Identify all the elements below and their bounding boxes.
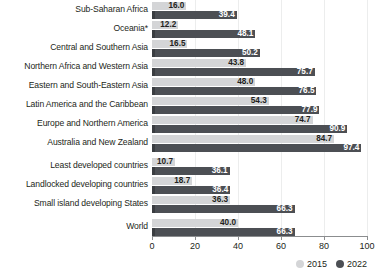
axis-tick-label: 40 bbox=[233, 241, 243, 251]
bar-value-label: 18.7 bbox=[174, 177, 190, 185]
legend-item-2015[interactable]: 2015 bbox=[296, 259, 327, 269]
category-label: Sub-Saharan Africa bbox=[0, 4, 148, 15]
bar-group: 36.366.3 bbox=[152, 195, 367, 214]
category-label: Australia and New Zealand bbox=[0, 137, 148, 148]
category-label: Small island developing States bbox=[0, 198, 148, 209]
bar-2022: 66.3 bbox=[152, 228, 295, 236]
bar-2015: 54.3 bbox=[152, 97, 269, 105]
bar-2015: 18.7 bbox=[152, 177, 192, 185]
bar-2022: 77.9 bbox=[152, 106, 319, 114]
bar-value-label: 36.3 bbox=[212, 196, 228, 204]
bar-value-label: 16.5 bbox=[170, 40, 186, 48]
bar-2022: 36.4 bbox=[152, 186, 230, 194]
bar-2022: 97.4 bbox=[152, 144, 361, 152]
bar-value-label: 66.3 bbox=[277, 228, 293, 236]
bar-value-label: 39.4 bbox=[219, 11, 235, 19]
axis-tick-label: 80 bbox=[319, 241, 329, 251]
chart-row: Central and Southern Asia16.550.2 bbox=[0, 39, 376, 58]
category-label: Central and Southern Asia bbox=[0, 42, 148, 53]
bar-2015: 74.7 bbox=[152, 116, 313, 124]
bar-value-label: 48.1 bbox=[237, 30, 253, 38]
bar-group: 40.066.3 bbox=[152, 218, 367, 237]
bar-group: 43.875.7 bbox=[152, 58, 367, 77]
x-axis-line bbox=[152, 236, 367, 237]
bar-value-label: 84.7 bbox=[316, 135, 332, 143]
bar-group: 54.377.9 bbox=[152, 96, 367, 115]
axis-tick bbox=[281, 236, 282, 240]
chart-row: Europe and Northern America74.790.9 bbox=[0, 115, 376, 134]
axis-tick bbox=[152, 236, 153, 240]
bar-2022: 76.5 bbox=[152, 87, 316, 95]
axis-tick bbox=[324, 236, 325, 240]
bar-2015: 43.8 bbox=[152, 59, 246, 67]
bar-2015: 12.2 bbox=[152, 21, 178, 29]
bar-value-label: 48.0 bbox=[237, 78, 253, 86]
bar-2022: 90.9 bbox=[152, 125, 347, 133]
axis-tick bbox=[238, 236, 239, 240]
legend-item-2022[interactable]: 2022 bbox=[336, 259, 367, 269]
chart-row: Northern Africa and Western Asia43.875.7 bbox=[0, 58, 376, 77]
bar-group: 84.797.4 bbox=[152, 134, 367, 153]
bar-value-label: 12.2 bbox=[160, 21, 176, 29]
bar-2015: 10.7 bbox=[152, 158, 175, 166]
bar-group: 16.039.4 bbox=[152, 1, 367, 20]
bar-value-label: 76.5 bbox=[299, 87, 315, 95]
bar-2022: 66.3 bbox=[152, 205, 295, 213]
category-label: Eastern and South-Eastern Asia bbox=[0, 80, 148, 91]
bar-2015: 48.0 bbox=[152, 78, 255, 86]
bar-value-label: 74.7 bbox=[295, 116, 311, 124]
axis-tick-label: 60 bbox=[276, 241, 286, 251]
bar-group: 10.736.1 bbox=[152, 157, 367, 176]
legend-label: 2015 bbox=[307, 259, 327, 269]
chart-legend: 20152022 bbox=[0, 257, 376, 271]
bar-value-label: 16.0 bbox=[168, 2, 184, 10]
chart-row: Oceania*12.248.1 bbox=[0, 20, 376, 39]
chart-row: Landlocked developing countries18.736.4 bbox=[0, 176, 376, 195]
bar-2022: 50.2 bbox=[152, 49, 260, 57]
bar-value-label: 36.4 bbox=[212, 186, 228, 194]
bar-group: 48.076.5 bbox=[152, 77, 367, 96]
legend-swatch-icon bbox=[296, 260, 304, 268]
legend-swatch-icon bbox=[336, 260, 344, 268]
chart-row: Sub-Saharan Africa16.039.4 bbox=[0, 1, 376, 20]
bar-group: 16.550.2 bbox=[152, 39, 367, 58]
chart-row: Latin America and the Caribbean54.377.9 bbox=[0, 96, 376, 115]
bar-value-label: 77.9 bbox=[302, 106, 318, 114]
bar-value-label: 66.3 bbox=[277, 205, 293, 213]
bar-2022: 48.1 bbox=[152, 30, 255, 38]
category-label: World bbox=[0, 221, 148, 232]
axis-tick-label: 20 bbox=[190, 241, 200, 251]
category-label: Least developed countries bbox=[0, 160, 148, 171]
bar-value-label: 50.2 bbox=[242, 49, 258, 57]
bar-2015: 16.0 bbox=[152, 2, 186, 10]
bar-value-label: 43.8 bbox=[228, 59, 244, 67]
bar-value-label: 54.3 bbox=[251, 97, 267, 105]
category-label: Northern Africa and Western Asia bbox=[0, 61, 148, 72]
bar-value-label: 10.7 bbox=[157, 158, 173, 166]
bar-2015: 16.5 bbox=[152, 40, 187, 48]
category-label: Landlocked developing countries bbox=[0, 179, 148, 190]
bar-value-label: 90.9 bbox=[329, 125, 345, 133]
category-label: Latin America and the Caribbean bbox=[0, 99, 148, 110]
bar-group: 18.736.4 bbox=[152, 176, 367, 195]
bar-2022: 36.1 bbox=[152, 167, 230, 175]
chart-row: Australia and New Zealand84.797.4 bbox=[0, 134, 376, 153]
bar-chart: Sub-Saharan Africa16.039.4Oceania*12.248… bbox=[0, 0, 376, 272]
axis-tick bbox=[367, 236, 368, 240]
axis-tick-label: 100 bbox=[359, 241, 374, 251]
category-label: Oceania* bbox=[0, 23, 148, 34]
category-label: Europe and Northern America bbox=[0, 118, 148, 129]
bar-group: 74.790.9 bbox=[152, 115, 367, 134]
bar-value-label: 40.0 bbox=[220, 219, 236, 227]
bar-value-label: 36.1 bbox=[212, 167, 228, 175]
bar-group: 12.248.1 bbox=[152, 20, 367, 39]
bar-value-label: 97.4 bbox=[343, 144, 359, 152]
bar-2015: 84.7 bbox=[152, 135, 334, 143]
bar-2015: 36.3 bbox=[152, 196, 230, 204]
chart-row: Small island developing States36.366.3 bbox=[0, 195, 376, 214]
bar-value-label: 75.7 bbox=[297, 68, 313, 76]
legend-label: 2022 bbox=[347, 259, 367, 269]
chart-row: Least developed countries10.736.1 bbox=[0, 157, 376, 176]
bar-2022: 39.4 bbox=[152, 11, 237, 19]
x-axis: 020406080100 bbox=[152, 236, 367, 256]
